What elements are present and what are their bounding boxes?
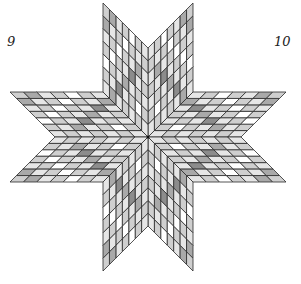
center-point: [147, 136, 150, 139]
lone-star-quilt-diagram: [0, 0, 301, 284]
